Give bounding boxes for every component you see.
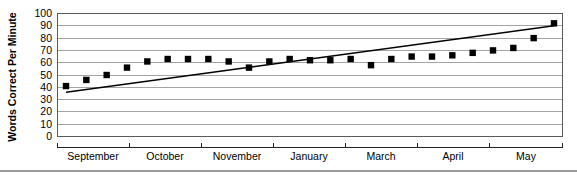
data-point-marker [307,57,313,63]
y-tick-label-20: 20 [40,105,52,117]
data-point-marker [103,72,109,78]
y-tick-label-10: 10 [40,118,52,130]
y-tick-label-80: 80 [40,32,52,44]
y-tick-label-30: 30 [40,93,52,105]
data-point-marker [510,45,516,51]
data-point-marker [164,56,170,62]
progress-monitoring-scatter-chart: Words Correct Per Minute 100 90 80 70 60… [0,0,577,180]
data-point-marker [551,20,557,26]
data-point-marker [144,58,150,64]
data-point-marker [429,53,435,59]
data-point-marker [530,35,536,41]
data-point-marker [63,83,69,89]
x-tick-label-may: May [516,150,537,162]
x-tick-label-october: October [146,150,184,162]
data-point-marker [469,50,475,56]
y-tick-label-40: 40 [40,81,52,93]
data-point-marker [185,56,191,62]
data-point-marker [246,64,252,70]
x-tick-label-march: March [366,150,395,162]
data-point-marker [490,47,496,53]
x-tick-label-april: April [442,150,463,162]
chart-figure: Words Correct Per Minute 100 90 80 70 60… [0,0,577,180]
y-tick-label-0: 0 [46,130,52,142]
data-point-marker [388,56,394,62]
data-point-marker [205,56,211,62]
x-tick-label-september: September [67,150,119,162]
data-point-marker [124,64,130,70]
data-point-marker [408,53,414,59]
data-point-marker [266,58,272,64]
x-tick-label-january: January [290,150,328,162]
y-tick-label-60: 60 [40,56,52,68]
y-axis-title: Words Correct Per Minute [6,12,18,141]
y-tick-label-100: 100 [34,7,52,19]
y-tick-label-70: 70 [40,44,52,56]
data-point-marker [286,56,292,62]
y-tick-label-90: 90 [40,19,52,31]
data-point-marker [83,77,89,83]
data-point-marker [449,52,455,58]
data-point-marker [368,62,374,68]
y-tick-label-50: 50 [40,69,52,81]
data-point-marker [327,57,333,63]
data-point-marker [347,56,353,62]
data-point-marker [225,58,231,64]
x-tick-label-november: November [213,150,262,162]
